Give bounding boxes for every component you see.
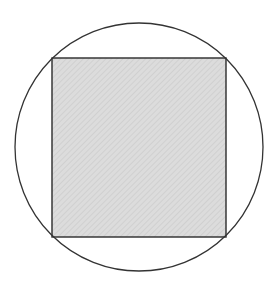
geometry-diagram [0, 0, 276, 282]
diagram-canvas [0, 0, 276, 282]
shaded-square [52, 58, 226, 237]
